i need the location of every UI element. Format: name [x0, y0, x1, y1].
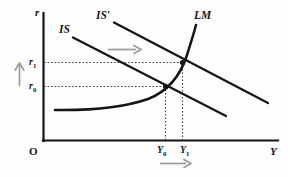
guide-line-group	[44, 62, 183, 140]
lm-curve-label: LM	[194, 10, 211, 22]
y-tick-label-r1-sub: 1	[33, 62, 36, 69]
x-tick-label-y0-sub: 0	[163, 150, 166, 157]
output-increase-arrow-icon	[160, 160, 191, 168]
equilibrium-point-initial	[163, 84, 168, 89]
is-shift-arrow-icon	[108, 46, 141, 54]
x-tick-label-y1-sub: 1	[186, 150, 189, 157]
equilibrium-point-new	[180, 60, 185, 65]
is-shifted-curve-label-prime: ′	[107, 9, 110, 21]
axis-group	[43, 13, 278, 141]
is-lm-diagram: r Y O IS IS′ LM r1 r0 Y0 Y1	[0, 0, 288, 177]
is-shifted-curve-label: IS′	[96, 10, 110, 22]
is-curve-label: IS	[59, 24, 70, 36]
rate-increase-arrow-icon	[15, 63, 24, 86]
y-tick-label-r0: r0	[29, 81, 36, 94]
is-shifted-curve-label-text: IS	[96, 9, 107, 21]
x-tick-label-y0: Y0	[157, 145, 167, 158]
x-axis-label: Y	[270, 146, 277, 157]
is-shifted-curve	[114, 23, 268, 104]
origin-label: O	[29, 146, 38, 157]
diagram-canvas	[0, 0, 288, 177]
y-axis-label: r	[35, 7, 39, 18]
is-curve	[73, 38, 226, 117]
y-tick-label-r0-sub: 0	[33, 86, 36, 93]
x-tick-label-y1: Y1	[180, 145, 190, 158]
lm-curve	[55, 25, 196, 110]
equilibrium-point-group	[163, 60, 185, 89]
y-tick-label-r1: r1	[29, 57, 36, 70]
